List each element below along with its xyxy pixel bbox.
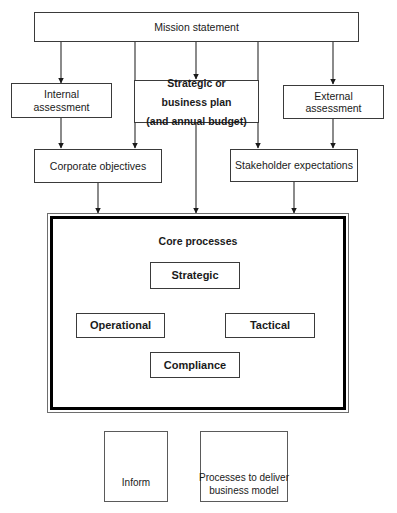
plan-line-3: (and annual budget) bbox=[146, 115, 246, 127]
legend-processes-label: Processes to deliver business model bbox=[198, 472, 290, 497]
node-operational-label: Operational bbox=[77, 319, 164, 332]
node-compliance[interactable]: Compliance bbox=[150, 352, 240, 378]
plan-line-2: business plan bbox=[161, 96, 231, 108]
node-mission-statement[interactable]: Mission statement bbox=[34, 12, 359, 42]
legend-processes-line-1: Processes to deliver bbox=[199, 472, 289, 483]
node-stakeholder-expectations-label: Stakeholder expectations bbox=[231, 159, 357, 171]
node-strategic[interactable]: Strategic bbox=[150, 262, 240, 289]
plan-line-1: Strategic or bbox=[167, 77, 225, 89]
core-processes-title: Core processes bbox=[47, 235, 349, 247]
node-strategic-business-plan-label: Strategic or business plan (and annual b… bbox=[135, 73, 258, 130]
node-tactical-label: Tactical bbox=[226, 319, 314, 332]
legend-processes-line-2: business model bbox=[209, 485, 278, 496]
node-stakeholder-expectations[interactable]: Stakeholder expectations bbox=[230, 149, 358, 182]
diagram-canvas: Mission statement Internal assessment St… bbox=[0, 0, 397, 513]
node-strategic-label: Strategic bbox=[151, 269, 239, 282]
node-compliance-label: Compliance bbox=[151, 359, 239, 372]
node-internal-assessment[interactable]: Internal assessment bbox=[11, 83, 112, 118]
node-corporate-objectives[interactable]: Corporate objectives bbox=[34, 149, 162, 183]
node-mission-statement-label: Mission statement bbox=[35, 21, 358, 33]
node-external-assessment[interactable]: External assessment bbox=[283, 85, 384, 119]
node-tactical[interactable]: Tactical bbox=[225, 313, 315, 338]
node-corporate-objectives-label: Corporate objectives bbox=[35, 160, 161, 172]
legend-inform-box bbox=[104, 431, 168, 502]
legend-inform-label: Inform bbox=[104, 477, 168, 490]
node-external-assessment-label: External assessment bbox=[284, 90, 383, 115]
node-internal-assessment-label: Internal assessment bbox=[12, 88, 111, 113]
node-operational[interactable]: Operational bbox=[76, 313, 165, 338]
node-strategic-business-plan[interactable]: Strategic or business plan (and annual b… bbox=[134, 80, 259, 123]
